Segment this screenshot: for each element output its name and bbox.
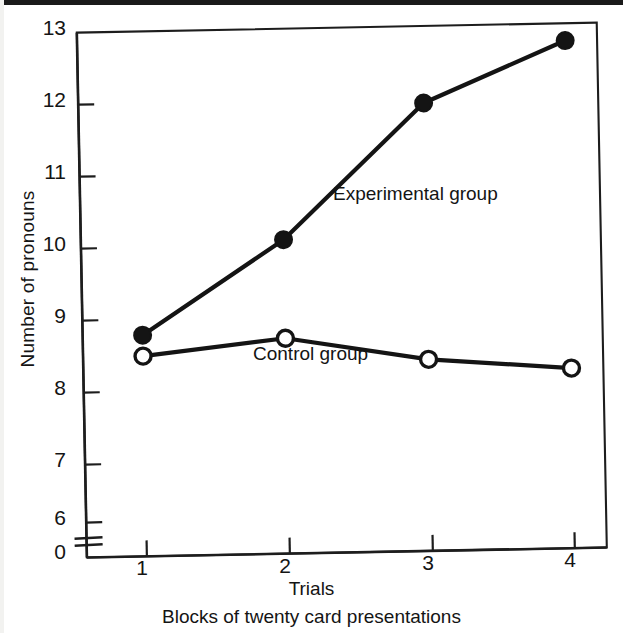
data-point-experimental-4 — [557, 32, 574, 49]
data-point-experimental-1 — [134, 327, 151, 344]
data-point-control-4 — [563, 360, 579, 376]
data-point-control-2 — [277, 330, 293, 346]
data-point-control-3 — [420, 351, 436, 367]
y-axis-break-marks — [75, 537, 103, 546]
x-axis-line — [87, 548, 607, 558]
series-line-control — [143, 333, 572, 377]
y-axis-line — [77, 33, 87, 558]
data-point-experimental-2 — [275, 231, 292, 248]
plot-area — [0, 0, 623, 633]
data-point-control-1 — [135, 348, 151, 364]
chart-figure: Number of pronouns 13 12 11 10 9 8 7 6 0… — [0, 0, 623, 633]
series-markers-control — [135, 325, 580, 385]
axis-frame — [77, 23, 607, 558]
data-point-experimental-3 — [415, 94, 432, 111]
series-line-experimental — [137, 41, 571, 336]
